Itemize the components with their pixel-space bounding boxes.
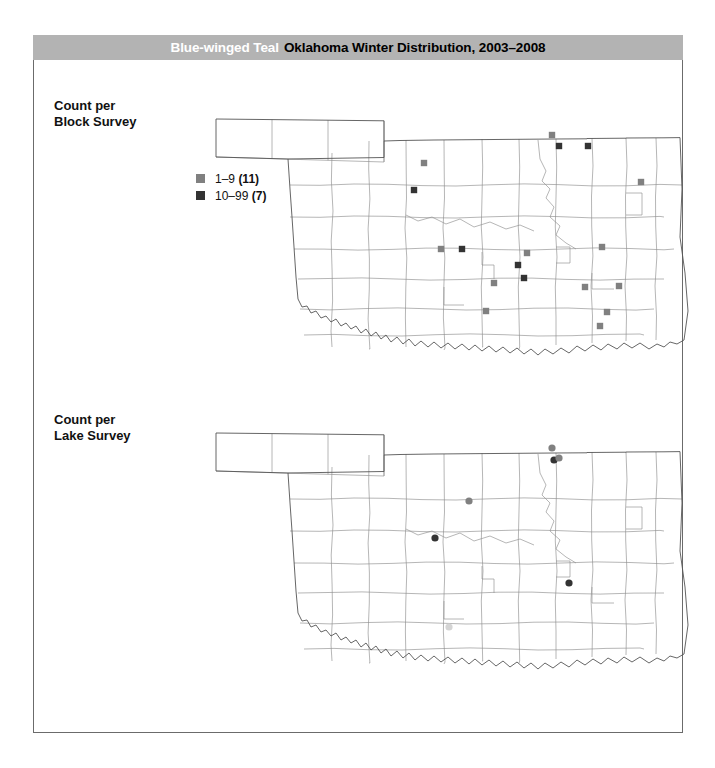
map-marker <box>597 323 603 329</box>
county-boundary <box>304 334 644 336</box>
panel-label-line2: Block Survey <box>54 114 136 130</box>
county-boundary <box>368 141 370 349</box>
county-boundary <box>300 622 654 624</box>
map-marker <box>491 280 497 286</box>
map-marker <box>616 283 622 289</box>
county-boundary <box>290 498 682 500</box>
county-boundary <box>331 153 333 347</box>
county-boundary <box>481 453 483 661</box>
panel-label-line2: Lake Survey <box>54 428 131 444</box>
county-boundary <box>294 248 674 250</box>
county-boundary <box>298 278 664 280</box>
county-boundary <box>555 453 557 659</box>
state-outline <box>216 119 688 355</box>
county-boundary <box>444 601 464 619</box>
county-boundary <box>592 273 614 289</box>
title-subtitle: Oklahoma Winter Distribution, 2003–2008 <box>284 40 546 55</box>
county-boundary <box>290 216 664 218</box>
title-bar: Blue-winged Teal Oklahoma Winter Distrib… <box>33 35 683 60</box>
county-boundary <box>444 287 464 305</box>
county-boundary <box>331 467 333 661</box>
content-frame: Count per Block Survey 1–9 (11) 10–99 (7… <box>33 60 683 733</box>
map-marker <box>565 579 572 586</box>
map-marker <box>524 250 530 256</box>
county-boundary <box>518 453 520 663</box>
county-boundary <box>298 592 664 594</box>
map-marker <box>465 497 472 504</box>
county-boundary <box>592 587 614 603</box>
county-boundary <box>443 454 445 664</box>
county-boundary <box>290 184 682 186</box>
map-block-survey <box>194 97 694 372</box>
county-boundary <box>625 138 627 341</box>
county-boundary <box>538 140 576 249</box>
county-boundary <box>405 454 407 661</box>
county-boundary <box>555 139 557 345</box>
map-marker <box>483 308 489 314</box>
map-marker <box>515 262 521 268</box>
map-marker <box>599 244 605 250</box>
map-marker <box>548 444 555 451</box>
map-marker <box>445 623 452 630</box>
distribution-map-page: Blue-winged Teal Oklahoma Winter Distrib… <box>0 0 715 768</box>
map-marker <box>549 132 555 138</box>
county-boundary <box>482 252 494 279</box>
map-marker <box>582 284 588 290</box>
county-boundary <box>443 140 445 350</box>
county-boundary <box>518 139 520 349</box>
map-marker <box>421 160 427 166</box>
county-boundary <box>591 138 593 343</box>
county-boundary <box>591 452 593 657</box>
map-marker <box>638 179 644 185</box>
county-boundary <box>300 308 654 310</box>
map-marker <box>438 246 444 252</box>
map-marker <box>556 143 562 149</box>
county-boundary <box>405 140 407 347</box>
title-species: Blue-winged Teal <box>171 40 279 55</box>
county-boundary <box>290 530 664 532</box>
panel-label-line1: Count per <box>54 412 131 428</box>
map-marker <box>585 143 591 149</box>
map-marker <box>521 275 527 281</box>
panel-label-line1: Count per <box>54 98 136 114</box>
panel-label-block: Count per Block Survey <box>54 98 136 130</box>
county-boundary <box>304 648 644 650</box>
map-marker <box>459 246 465 252</box>
county-boundary <box>626 507 642 529</box>
county-boundary <box>481 139 483 347</box>
map-marker <box>604 309 610 315</box>
state-outline <box>216 433 688 669</box>
county-boundary <box>655 452 657 654</box>
county-boundary <box>294 562 674 564</box>
county-boundary <box>538 454 576 563</box>
county-boundary <box>368 455 370 663</box>
map-marker <box>555 454 562 461</box>
county-boundary <box>655 138 657 340</box>
map-marker <box>411 187 417 193</box>
map-marker <box>431 534 438 541</box>
panel-label-lake: Count per Lake Survey <box>54 412 131 444</box>
county-boundary <box>626 193 642 215</box>
county-boundary <box>482 566 494 593</box>
map-lake-survey <box>194 411 694 686</box>
county-boundary <box>625 452 627 655</box>
